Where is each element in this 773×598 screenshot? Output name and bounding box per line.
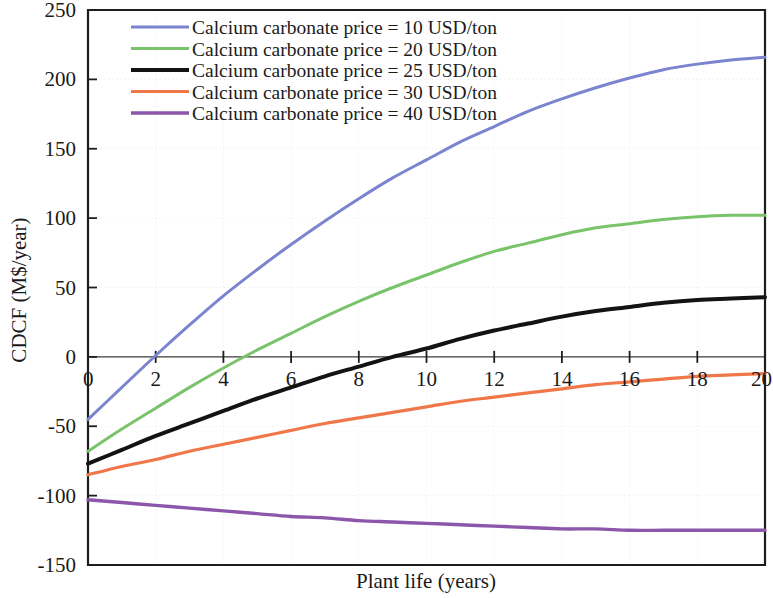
y-tick-label: 50: [55, 276, 76, 300]
y-tick-label: 0: [66, 345, 77, 369]
y-tick-label: 250: [45, 0, 77, 22]
y-tick-label: -50: [48, 414, 76, 438]
series-line-5: [88, 500, 765, 531]
y-tick-label: -100: [38, 484, 77, 508]
x-axis-title: Plant life (years): [356, 569, 496, 593]
y-tick-label: -150: [38, 553, 77, 577]
legend-label-2: Calcium carbonate price = 20 USD/ton: [192, 39, 497, 60]
x-tick-label: 10: [416, 367, 437, 391]
legend-label-3: Calcium carbonate price = 25 USD/ton: [192, 60, 497, 81]
y-tick-label: 100: [45, 206, 77, 230]
x-tick-label: 0: [83, 367, 94, 391]
x-tick-label: 8: [354, 367, 365, 391]
y-tick-label: 150: [45, 137, 77, 161]
y-tick-label: 200: [45, 67, 77, 91]
x-tick-label: 20: [751, 367, 772, 391]
x-tick-label: 6: [286, 367, 297, 391]
legend-label-4: Calcium carbonate price = 30 USD/ton: [192, 82, 497, 103]
x-tick-label: 14: [551, 367, 573, 391]
cdcf-vs-plant-life-line-chart: 02468101214161820 -150-100-5005010015020…: [0, 0, 773, 598]
y-axis-title: CDCF (M$/year): [7, 217, 31, 362]
legend-label-5: Calcium carbonate price = 40 USD/ton: [192, 103, 497, 124]
x-tick-label: 16: [619, 367, 640, 391]
legend-label-1: Calcium carbonate price = 10 USD/ton: [192, 17, 497, 38]
x-tick-label: 12: [484, 367, 505, 391]
chart-legend: Calcium carbonate price = 10 USD/tonCalc…: [131, 17, 497, 124]
chart-figure: 02468101214161820 -150-100-5005010015020…: [0, 0, 773, 598]
x-tick-label: 18: [687, 367, 708, 391]
x-tick-label: 4: [218, 367, 229, 391]
y-tick-labels: -150-100-50050100150200250: [38, 0, 77, 577]
data-series-group: [88, 57, 765, 530]
x-tick-label: 2: [150, 367, 161, 391]
